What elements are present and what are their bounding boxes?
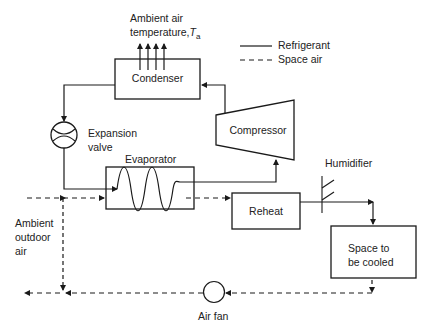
condenser-label: Condenser — [115, 72, 200, 85]
compressor-label: Compressor — [222, 124, 294, 137]
refrigerant-line-valve-to-evaporator — [64, 148, 117, 189]
air-fan-icon — [204, 282, 225, 303]
space-label-line1: Space to — [348, 242, 389, 255]
refrigerant-line-compressor-to-condenser — [202, 85, 225, 113]
expansion-valve-label-line2: valve — [88, 141, 113, 154]
ambient-outdoor-label-line1: Ambient — [15, 217, 54, 230]
air-fan-label: Air fan — [198, 310, 228, 323]
ambient-air-temperature-text: temperature, — [130, 26, 190, 38]
heat-rejection-arrows — [140, 44, 164, 70]
ambient-air-label-line2: temperature,Ta — [130, 26, 200, 43]
ambient-outdoor-label-line3: air — [15, 245, 27, 258]
refrigerant-line-condenser-to-valve — [64, 85, 115, 121]
ambient-air-label-line1: Ambient air — [130, 12, 183, 25]
evaporator-label: Evaporator — [125, 153, 176, 166]
expansion-valve-icon — [51, 122, 77, 148]
space-label-line2: be cooled — [348, 256, 394, 269]
legend-space-air-label: Space air — [278, 53, 322, 66]
evaporator-coil-icon — [117, 167, 180, 211]
humidifier-icon — [322, 176, 334, 213]
evaporator-box — [106, 167, 194, 209]
ambient-outdoor-label-line2: outdoor — [15, 231, 51, 244]
expansion-valve-label-line1: Expansion — [88, 127, 137, 140]
ambient-air-subscript: a — [196, 32, 200, 41]
reheat-label: Reheat — [232, 205, 300, 218]
legend — [240, 46, 272, 60]
humidifier-label: Humidifier — [325, 157, 372, 170]
legend-refrigerant-label: Refrigerant — [278, 39, 330, 52]
